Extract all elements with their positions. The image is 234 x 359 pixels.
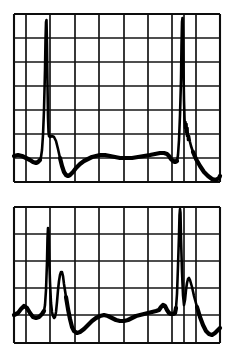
ecg-trace-baseline-segment [193, 152, 220, 180]
ecg-page-root [0, 0, 234, 359]
ecg-strip-upper-svg [0, 0, 234, 196]
ecg-trace-baseline-segment [60, 153, 177, 176]
ecg-trace-baseline-segment [197, 307, 220, 335]
ecg-trace-baseline-segment [14, 155, 40, 163]
ecg-trace-line [14, 209, 220, 335]
ecg-lower-trace-group [14, 209, 220, 335]
ecg-strip-lower-panel [0, 196, 234, 359]
ecg-lower-grid [14, 207, 220, 343]
ecg-upper-trace-group [14, 18, 220, 180]
ecg-strip-upper-panel [0, 0, 234, 196]
ecg-strip-lower-svg [0, 196, 234, 359]
ecg-trace-baseline-segment [14, 306, 44, 318]
